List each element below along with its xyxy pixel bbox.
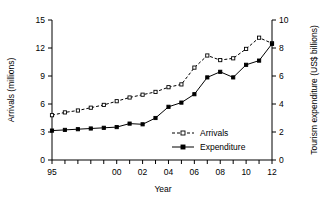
data-point-expenditure — [206, 76, 209, 79]
data-point-expenditure — [63, 128, 66, 131]
data-point-arrivals — [128, 96, 131, 99]
data-point-arrivals — [180, 83, 183, 86]
data-point-expenditure — [193, 93, 196, 96]
data-point-expenditure — [115, 126, 118, 129]
data-point-arrivals — [232, 57, 235, 60]
data-point-expenditure — [76, 128, 79, 131]
series-line-arrivals — [52, 38, 272, 116]
y-axis-right-tick-label: 8 — [279, 43, 284, 53]
data-point-expenditure — [180, 101, 183, 104]
y-axis-right-tick-label: 0 — [279, 155, 284, 165]
data-point-expenditure — [102, 126, 105, 129]
y-axis-left-tick-label: 15 — [36, 15, 46, 25]
data-point-expenditure — [89, 127, 92, 130]
data-point-arrivals — [206, 54, 209, 57]
legend-label-arrivals: Arrivals — [200, 128, 228, 138]
y-axis-right-tick-label: 6 — [279, 71, 284, 81]
x-axis-title: Year — [154, 184, 171, 194]
x-axis-tick-label: 02 — [138, 167, 148, 177]
x-axis-tick-label: 12 — [267, 167, 277, 177]
y-axis-left-tick-label: 12 — [36, 43, 46, 53]
x-axis-tick-label: 08 — [216, 167, 226, 177]
y-axis-left-tick-label: 6 — [40, 99, 45, 109]
y-axis-right-tick-label: 10 — [279, 15, 289, 25]
data-point-arrivals — [154, 90, 157, 93]
data-point-arrivals — [102, 103, 105, 106]
data-point-arrivals — [167, 86, 170, 89]
data-point-arrivals — [245, 47, 248, 50]
data-point-expenditure — [232, 76, 235, 79]
data-point-expenditure — [258, 59, 261, 62]
y-axis-left-tick-label: 0 — [40, 155, 45, 165]
legend-marker-arrivals — [181, 131, 185, 135]
x-axis-tick-label: 10 — [241, 167, 251, 177]
data-point-expenditure — [154, 116, 157, 119]
y-axis-left-tick-label: 3 — [40, 127, 45, 137]
x-axis-tick-label: 00 — [112, 167, 122, 177]
x-axis-tick-label: 95 — [47, 167, 57, 177]
data-point-arrivals — [89, 106, 92, 109]
data-point-arrivals — [76, 109, 79, 112]
data-point-expenditure — [128, 122, 131, 125]
data-point-expenditure — [245, 63, 248, 66]
legend-label-expenditure: Expenditure — [200, 142, 246, 152]
legend-marker-expenditure — [181, 145, 185, 149]
y-axis-right-title: Tourism expenditure (US$ billions) — [309, 25, 319, 155]
y-axis-right-tick-label: 4 — [279, 99, 284, 109]
data-point-arrivals — [219, 59, 222, 62]
data-point-arrivals — [141, 93, 144, 96]
data-point-arrivals — [193, 66, 196, 69]
data-point-arrivals — [115, 100, 118, 103]
series-line-expenditure — [52, 44, 272, 131]
data-point-expenditure — [141, 123, 144, 126]
data-point-expenditure — [219, 70, 222, 73]
y-axis-left-tick-label: 9 — [40, 71, 45, 81]
data-point-expenditure — [167, 105, 170, 108]
data-point-expenditure — [50, 129, 53, 132]
data-point-arrivals — [258, 36, 261, 39]
y-axis-left-title: Arrivals (millions) — [6, 57, 16, 122]
chart-canvas: 0369121502468109500020406081012YearArriv… — [0, 0, 327, 200]
data-point-arrivals — [63, 111, 66, 114]
x-axis-tick-label: 06 — [190, 167, 200, 177]
x-axis-tick-label: 04 — [164, 167, 174, 177]
data-point-expenditure — [270, 42, 273, 45]
y-axis-right-tick-label: 2 — [279, 127, 284, 137]
data-point-arrivals — [50, 114, 53, 117]
tourism-chart: 0369121502468109500020406081012YearArriv… — [0, 0, 327, 200]
